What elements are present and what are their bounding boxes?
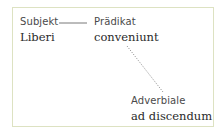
subjekt-label: Subjekt	[20, 16, 58, 27]
praedikat-adverbiale-connector	[127, 46, 163, 92]
praedikat-word: conveniunt	[94, 30, 159, 44]
adverbiale-label: Adverbiale	[131, 95, 185, 106]
subjekt-word: Liberi	[20, 30, 55, 44]
praedikat-label: Prädikat	[94, 16, 136, 27]
adverbiale-word: ad discendum	[131, 109, 212, 123]
